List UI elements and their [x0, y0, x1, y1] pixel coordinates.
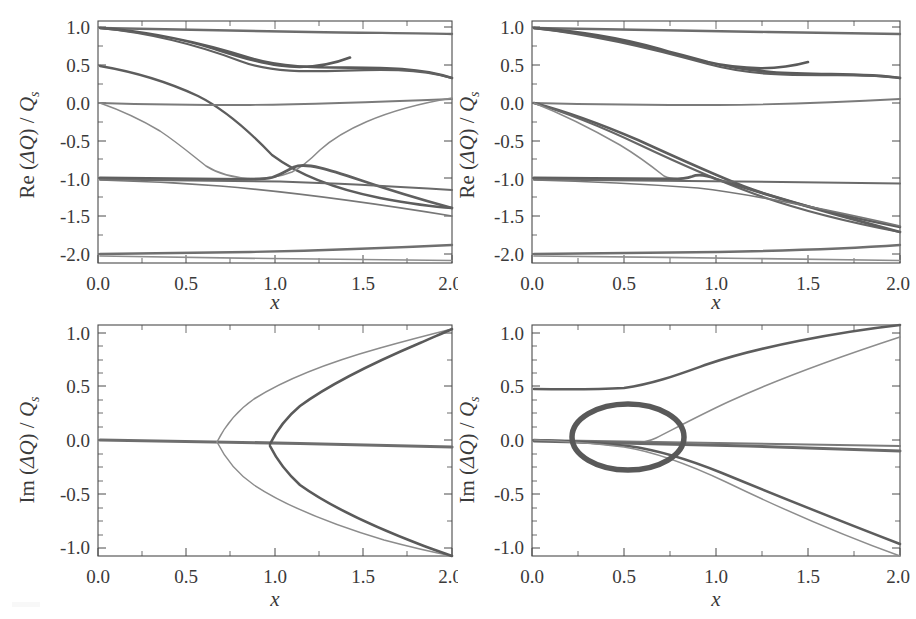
x-axis-label-bottom-right: x	[710, 587, 721, 611]
page-artifact	[12, 602, 40, 607]
x-axis-label-top-right: x	[710, 290, 721, 310]
ytick-label: -1.5	[494, 206, 524, 227]
ytick-label: -2.0	[60, 244, 90, 265]
ytick-label: 0.5	[500, 55, 524, 76]
xtick-label: 0.0	[520, 566, 544, 587]
xtick-label: 0.0	[520, 273, 544, 294]
xtick-label: 2.0	[438, 273, 458, 294]
panel-top-left: Re (ΔQ) / Qs 1.0 0.5 0.0 -0.5 -1.0 -1.5 …	[0, 0, 458, 310]
highlight-ellipse	[572, 404, 684, 470]
figure-container: Re (ΔQ) / Qs 1.0 0.5 0.0 -0.5 -1.0 -1.5 …	[0, 0, 916, 619]
xtick-label: 1.5	[796, 273, 820, 294]
xtick-label: 1.0	[704, 566, 728, 587]
ytick-label: -1.5	[60, 206, 90, 227]
ytick-label: -1.0	[494, 537, 524, 558]
ytick-label: 1.0	[66, 17, 90, 38]
ytick-label: -0.5	[494, 484, 524, 505]
ytick-label: 1.0	[66, 323, 90, 344]
xtick-label: 0.5	[174, 273, 198, 294]
curve-group	[534, 325, 900, 556]
xtick-label: 1.0	[263, 566, 287, 587]
svg-text:Re (ΔQ) / Qs: Re (ΔQ) / Qs	[458, 91, 482, 199]
ytick-label: 1.0	[500, 17, 524, 38]
xtick-label: 0.5	[612, 273, 636, 294]
panel-bottom-left: Im (ΔQ) / Qs 1.0 0.5 0.0 -0.5 -1.0 0.0 0…	[0, 310, 458, 619]
xtick-label: 0.5	[612, 566, 636, 587]
xtick-label: 2.0	[886, 566, 910, 587]
plot-top-right: Re (ΔQ) / Qs 1.0 0.5 0.0 -0.5 -1.0 -1.5 …	[458, 0, 916, 310]
ytick-label: -0.5	[60, 484, 90, 505]
panel-top-right: Re (ΔQ) / Qs 1.0 0.5 0.0 -0.5 -1.0 -1.5 …	[458, 0, 916, 310]
y-axis-label-top-right: Re (ΔQ) / Qs	[458, 91, 482, 199]
xtick-label: 1.5	[351, 273, 375, 294]
xtick-label: 1.5	[796, 566, 820, 587]
ytick-label: 0.0	[66, 430, 90, 451]
xtick-label: 0.5	[174, 566, 198, 587]
ytick-label: -1.0	[494, 169, 524, 190]
xtick-label: 0.0	[86, 273, 110, 294]
ytick-label: 1.0	[500, 323, 524, 344]
plot-bottom-right: Im (ΔQ) / Qs 1.0 0.5 0.0 -0.5 -1.0 0.0 0…	[458, 310, 916, 619]
ytick-label: -0.5	[494, 131, 524, 152]
axis-ticks	[98, 21, 452, 263]
x-axis-label-top-left: x	[269, 290, 280, 310]
ytick-label: 0.0	[66, 93, 90, 114]
ytick-label: -1.0	[60, 169, 90, 190]
plot-frame	[98, 21, 452, 263]
ytick-label: 0.0	[500, 93, 524, 114]
plot-frame	[532, 21, 900, 263]
ytick-label: -0.5	[60, 131, 90, 152]
plot-bottom-left: Im (ΔQ) / Qs 1.0 0.5 0.0 -0.5 -1.0 0.0 0…	[0, 310, 458, 619]
ytick-label: 0.0	[500, 430, 524, 451]
axis-ticks	[532, 21, 900, 263]
svg-text:Im (ΔQ) / Qs: Im (ΔQ) / Qs	[458, 396, 482, 504]
xtick-label: 2.0	[438, 566, 458, 587]
y-axis-label-bottom-left: Im (ΔQ) / Qs	[15, 396, 42, 504]
curve-group	[534, 28, 900, 261]
svg-text:Im (ΔQ) / Qs: Im (ΔQ) / Qs	[15, 396, 42, 504]
ytick-label: -2.0	[494, 244, 524, 265]
xtick-label: 0.0	[86, 566, 110, 587]
ytick-label: 0.5	[66, 376, 90, 397]
ytick-label: 0.5	[500, 376, 524, 397]
curve-group	[100, 329, 452, 556]
ytick-label: 0.5	[66, 55, 90, 76]
curve-group	[100, 28, 452, 261]
ytick-label: -1.0	[60, 537, 90, 558]
svg-text:Re (ΔQ) / Qs: Re (ΔQ) / Qs	[15, 91, 42, 199]
plot-top-left: Re (ΔQ) / Qs 1.0 0.5 0.0 -0.5 -1.0 -1.5 …	[0, 0, 458, 310]
panel-bottom-right: Im (ΔQ) / Qs 1.0 0.5 0.0 -0.5 -1.0 0.0 0…	[458, 310, 916, 619]
y-axis-label-bottom-right: Im (ΔQ) / Qs	[458, 396, 482, 504]
xtick-label: 1.5	[351, 566, 375, 587]
y-axis-label-top-left: Re (ΔQ) / Qs	[15, 91, 42, 199]
xtick-label: 2.0	[886, 273, 910, 294]
x-axis-label-bottom-left: x	[269, 587, 280, 611]
